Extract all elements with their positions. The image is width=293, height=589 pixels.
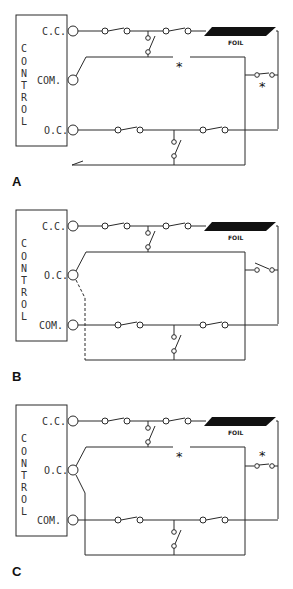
foil-label: FOIL (228, 429, 243, 436)
svg-text:O: O (21, 56, 27, 67)
fault-marker-switch: * (259, 448, 266, 463)
panel-label-b: B (12, 369, 21, 384)
svg-text:C: C (21, 238, 27, 249)
terminal-com (68, 75, 78, 85)
svg-text:T: T (21, 80, 27, 91)
svg-text:O: O (21, 494, 27, 505)
bottom-loop (78, 127, 278, 165)
svg-text:T: T (21, 470, 27, 481)
panel-label-c: C (12, 564, 22, 579)
svg-text:C: C (21, 43, 27, 54)
terminal-cc (68, 221, 78, 231)
svg-text:N: N (21, 458, 27, 469)
svg-text:O: O (21, 104, 27, 115)
terminal-label-bottom: O.C. (44, 125, 68, 136)
foil-strip (204, 417, 276, 426)
foil-label: FOIL (228, 234, 243, 241)
terminal-label-bottom: COM. (39, 320, 63, 331)
svg-text:N: N (21, 68, 27, 79)
svg-text:L: L (21, 116, 27, 127)
svg-text:R: R (21, 287, 28, 298)
svg-text:T: T (21, 275, 27, 286)
terminal-label-middle: O.C. (44, 270, 68, 281)
terminal-label-middle: COM. (37, 75, 61, 86)
panel-a: C O N T R O L C.C. COM. O.C. (12, 15, 278, 189)
terminal-oc (68, 465, 78, 475)
control-label: C O N T R O L (21, 433, 28, 517)
panel-c: C O N T R O L C.C. O.C. COM. FOIL (12, 405, 278, 579)
svg-text:C: C (21, 433, 27, 444)
terminal-com (68, 320, 78, 330)
svg-text:O: O (21, 446, 27, 457)
svg-text:N: N (21, 263, 27, 274)
terminal-label-bottom: COM. (37, 515, 61, 526)
terminal-label-top: C.C. (42, 26, 66, 37)
svg-text:L: L (21, 506, 27, 517)
foil-strip (204, 222, 276, 231)
terminal-oc (68, 125, 78, 135)
terminal-oc (68, 270, 78, 280)
fault-marker-break: * (176, 449, 183, 464)
foil-strip (204, 27, 276, 36)
inner-loop: * * (72, 57, 278, 165)
terminal-label-middle: O.C. (44, 465, 68, 476)
control-label: C O N T R O L (21, 43, 28, 127)
terminal-label-top: C.C. (42, 416, 66, 427)
top-loop: FOIL (78, 27, 278, 129)
top-loop: FOIL (78, 417, 278, 519)
svg-text:O: O (21, 251, 27, 262)
fault-marker-break: * (176, 59, 183, 74)
terminal-cc (68, 416, 78, 426)
terminal-label-top: C.C. (42, 221, 66, 232)
svg-text:O: O (21, 299, 27, 310)
wiring-diagrams: C O N T R O L C.C. COM. O.C. (0, 0, 293, 589)
control-label: C O N T R O L (21, 238, 28, 322)
fault-marker-switch: * (259, 79, 266, 94)
bottom-loop (78, 322, 278, 360)
panel-b: C O N T R O L C.C. O.C. COM. FOIL (12, 210, 278, 384)
foil-label: FOIL (228, 39, 243, 46)
svg-text:R: R (21, 92, 28, 103)
bottom-loop (78, 517, 278, 555)
top-loop: FOIL (78, 222, 278, 324)
terminal-com (68, 515, 78, 525)
terminal-cc (68, 26, 78, 36)
svg-text:L: L (21, 311, 27, 322)
panel-label-a: A (12, 174, 22, 189)
svg-text:R: R (21, 482, 28, 493)
